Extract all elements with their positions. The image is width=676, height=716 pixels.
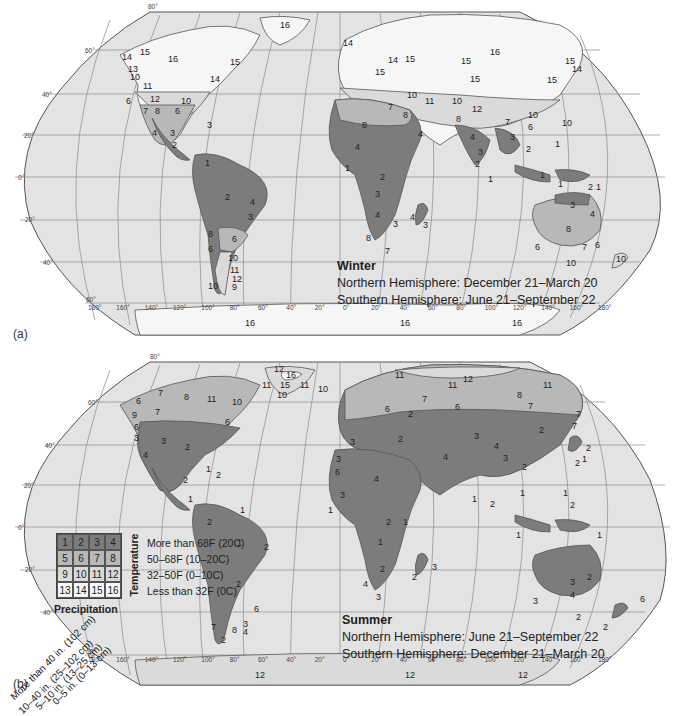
southern-hemisphere-dates: Southern Hemisphere: June 21–September 2…	[337, 292, 598, 309]
region-number: 2	[380, 564, 385, 574]
lat-label: 40°	[43, 609, 53, 616]
region-number: 2	[221, 635, 226, 645]
region-number: 1	[206, 464, 211, 474]
region-number: 6	[385, 404, 390, 414]
region-number: 4	[410, 212, 415, 222]
lat-label: 40°	[42, 91, 52, 98]
lat-label: 0°	[18, 524, 25, 531]
region-number: 6	[232, 234, 237, 244]
legend-cell: 12	[105, 566, 121, 582]
region-number: 2	[522, 462, 527, 472]
region-number: 4	[243, 627, 248, 637]
lon-label: 60°	[258, 656, 268, 663]
lon-label: 40°	[286, 304, 296, 311]
region-number: 9	[132, 410, 137, 420]
region-number: 2	[539, 425, 544, 435]
region-number: 8	[362, 120, 367, 130]
lat-label: 80°	[150, 353, 160, 360]
region-number: 8	[366, 233, 371, 243]
region-number: 4	[250, 197, 255, 207]
region-number: 11	[543, 380, 552, 390]
region-number: 3	[503, 453, 508, 463]
lon-label: 20°	[315, 656, 325, 663]
temperature-label: 32–50F (0–10C)	[147, 567, 244, 583]
temperature-label: 50–68F (10–20C)	[147, 551, 244, 567]
region-number: 1	[555, 139, 560, 149]
region-number: 15	[461, 56, 471, 66]
region-number: 2	[386, 517, 391, 527]
region-number: 11	[143, 81, 152, 91]
region-number: 3	[161, 436, 166, 446]
region-number: 3	[474, 431, 479, 441]
region-number: 2	[380, 172, 385, 182]
region-number: 4	[570, 590, 575, 600]
region-number: 1	[188, 494, 193, 504]
region-number: 1	[240, 505, 245, 515]
region-number: 4	[470, 132, 475, 142]
legend-cell: 2	[73, 534, 89, 550]
region-number: 6	[335, 467, 340, 477]
region-number: 7	[211, 622, 216, 632]
region-number: 3	[340, 490, 345, 500]
region-number: 2	[586, 443, 591, 453]
legend-grid: 12345678910111213141516	[56, 533, 122, 599]
region-number: 10	[130, 72, 140, 82]
region-number: 12	[150, 94, 160, 104]
region-number: 3	[376, 592, 381, 602]
region-number: 10	[318, 384, 328, 394]
lon-label: 160°	[116, 656, 130, 663]
region-number: 8	[456, 114, 461, 124]
region-number: 10	[232, 397, 242, 407]
region-number: 2	[183, 475, 188, 485]
lon-label: 40°	[286, 656, 296, 663]
region-number: 15	[375, 67, 385, 77]
region-number: 4	[363, 579, 368, 589]
lat-label: 80°	[148, 3, 158, 10]
region-number: 1	[558, 179, 563, 189]
region-number: 3	[375, 189, 380, 199]
region-number: 10	[562, 118, 572, 128]
lon-label: 60°	[258, 304, 268, 311]
region-number: 12	[463, 374, 473, 384]
temperature-labels: More than 68F (20C) 50–68F (10–20C) 32–5…	[147, 535, 244, 599]
region-number: 16	[286, 370, 296, 380]
region-number: 2	[216, 470, 221, 480]
region-number: 1	[328, 505, 333, 515]
region-number: 8	[184, 392, 189, 402]
region-number: 10	[616, 254, 626, 264]
region-number: 6	[136, 396, 141, 406]
northern-hemisphere-dates: Northern Hemisphere: June 21–September 2…	[342, 629, 605, 646]
region-number: 6	[254, 604, 259, 614]
region-number: 7	[528, 401, 533, 411]
temperature-label: Less than 32F (0C)	[147, 583, 244, 599]
lon-label: 100°	[201, 304, 215, 311]
region-number: 2	[475, 159, 480, 169]
region-number: 3	[336, 454, 341, 464]
climate-legend: 12345678910111213141516 Temperature More…	[56, 533, 122, 599]
region-number: 8	[155, 106, 160, 116]
region-number: 4	[143, 450, 148, 460]
region-number: 7	[505, 117, 510, 127]
region-number: 2	[398, 434, 403, 444]
region-number: 11	[448, 380, 457, 390]
region-number: 1	[205, 158, 210, 168]
region-number: 8	[403, 110, 408, 120]
region-number: 4	[375, 210, 380, 220]
legend-cell: 13	[57, 582, 73, 598]
region-number: 15	[230, 57, 240, 67]
lat-label: 20°	[24, 132, 34, 139]
region-number: 2	[588, 182, 593, 192]
region-number: 2	[587, 572, 592, 582]
region-number: 16	[490, 47, 500, 57]
region-number: 6	[208, 244, 213, 254]
region-number: 8	[517, 390, 522, 400]
region-number: 7	[582, 242, 587, 252]
region-number: 12	[405, 670, 415, 680]
legend-cell: 5	[57, 550, 73, 566]
region-number: 4	[355, 142, 360, 152]
lon-label: 100°	[201, 656, 215, 663]
region-number: 3	[170, 128, 175, 138]
winter-caption: Winter Northern Hemisphere: December 21–…	[337, 258, 598, 309]
region-number: 3	[248, 212, 253, 222]
summer-caption: Summer Northern Hemisphere: June 21–Sept…	[342, 612, 605, 663]
